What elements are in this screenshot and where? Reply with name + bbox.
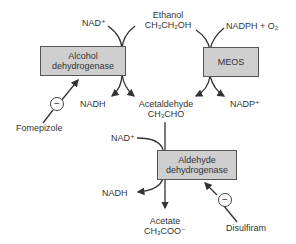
aldehyde-dehydrogenase-box: Aldehyde dehydrogenase bbox=[157, 150, 237, 180]
fomepizole-inhibition-icon: − bbox=[50, 97, 64, 111]
ethanol-name: Ethanol bbox=[138, 10, 198, 20]
ethanol-formula: CH₃CH₂OH bbox=[138, 20, 198, 30]
nadh-label-aldh: NADH bbox=[102, 188, 128, 198]
nad-plus-label-adh: NAD⁺ bbox=[82, 18, 106, 28]
adh-line1: Alcohol bbox=[52, 51, 114, 61]
nad-plus-label-aldh: NAD⁺ bbox=[111, 133, 135, 143]
disulfiram-inhibition-icon: − bbox=[218, 193, 232, 207]
meos-label: MEOS bbox=[218, 57, 245, 67]
ethanol-metabolism-diagram: NAD⁺ Ethanol CH₃CH₂OH NADPH + O₂ Alcohol… bbox=[0, 0, 296, 244]
adh-line2: dehydrogenase bbox=[52, 61, 114, 71]
ethanol-node: Ethanol CH₃CH₂OH bbox=[138, 10, 198, 30]
nadph-o2-label: NADPH + O₂ bbox=[226, 21, 278, 31]
aldh-line2: dehydrogenase bbox=[166, 165, 228, 175]
meos-box: MEOS bbox=[203, 47, 259, 77]
fomepizole-label: Fomepizole bbox=[16, 123, 63, 133]
nadh-label-adh: NADH bbox=[80, 99, 106, 109]
acetate-name: Acetate bbox=[140, 216, 190, 226]
acetate-node: Acetate CH₃COO⁻ bbox=[140, 216, 190, 236]
acetaldehyde-node: Acetaldehyde CH₃CHO bbox=[132, 99, 200, 119]
acetate-formula: CH₃COO⁻ bbox=[140, 226, 190, 236]
alcohol-dehydrogenase-box: Alcohol dehydrogenase bbox=[40, 46, 126, 76]
disulfiram-label: Disulfiram bbox=[226, 223, 266, 233]
pathway-arrows bbox=[0, 0, 296, 244]
nadp-plus-label: NADP⁺ bbox=[230, 99, 260, 109]
acetaldehyde-formula: CH₃CHO bbox=[132, 109, 200, 119]
acetaldehyde-name: Acetaldehyde bbox=[132, 99, 200, 109]
aldh-line1: Aldehyde bbox=[166, 155, 228, 165]
